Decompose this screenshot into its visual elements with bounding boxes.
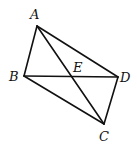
vertex-label-c: C xyxy=(99,129,109,144)
edges-group xyxy=(24,26,118,124)
segment-ab xyxy=(24,26,37,76)
segment-cd xyxy=(104,77,118,124)
vertex-label-d: D xyxy=(119,70,131,85)
vertex-label-b: B xyxy=(8,69,19,84)
geometry-diagram: A B C D E xyxy=(0,0,137,146)
segment-bc xyxy=(24,76,104,124)
vertex-label-a: A xyxy=(29,7,39,22)
intersection-label-e: E xyxy=(72,60,83,75)
segment-ac xyxy=(37,26,104,124)
